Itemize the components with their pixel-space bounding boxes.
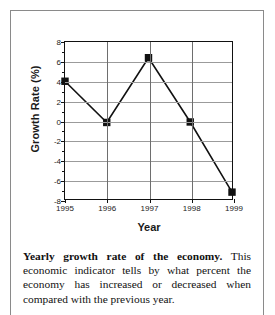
y-gridline: [65, 161, 232, 162]
y-tick-mark: [61, 122, 65, 123]
x-axis-title: Year: [64, 221, 234, 233]
y-tick-label: 2: [57, 97, 61, 106]
x-tick-label: 1997: [141, 204, 159, 213]
y-tick-label: -2: [54, 137, 61, 146]
y-tick-label: 4: [57, 77, 61, 86]
x-tick-label: 1996: [98, 204, 116, 213]
y-tick-label: -4: [54, 157, 61, 166]
y-minor-tick-mark: [62, 171, 65, 172]
y-gridline: [65, 102, 232, 103]
x-tick-mark: [234, 199, 235, 203]
y-minor-tick-mark: [62, 151, 65, 152]
growth-rate-chart: Growth Rate (%) 86420-2-4-6-819951996199…: [11, 11, 265, 239]
y-tick-mark: [61, 181, 65, 182]
y-gridline: [65, 141, 232, 142]
x-gridline: [150, 42, 151, 199]
x-tick-label: 1995: [56, 204, 74, 213]
y-tick-mark: [61, 141, 65, 142]
x-tick-mark: [192, 199, 193, 203]
y-tick-mark: [61, 82, 65, 83]
y-tick-mark: [61, 161, 65, 162]
data-line: [65, 58, 232, 192]
x-gridline: [192, 42, 193, 199]
y-tick-label: 0: [57, 117, 61, 126]
y-minor-tick-mark: [62, 72, 65, 73]
data-point-marker: [228, 188, 235, 195]
y-tick-label: -6: [54, 177, 61, 186]
y-minor-tick-mark: [62, 52, 65, 53]
plot-area: 86420-2-4-6-819951996199719981999: [64, 41, 233, 200]
x-tick-label: 1998: [183, 204, 201, 213]
caption-lead: Yearly growth rate of the economy.: [23, 250, 222, 262]
x-gridline: [107, 42, 108, 199]
y-tick-mark: [61, 102, 65, 103]
x-tick-mark: [107, 199, 108, 203]
x-tick-mark: [65, 199, 66, 203]
x-tick-label: 1999: [225, 204, 243, 213]
figure-caption: Yearly growth rate of the economy. This …: [23, 249, 251, 306]
y-gridline: [65, 62, 232, 63]
y-tick-label: 8: [57, 38, 61, 47]
y-gridline: [65, 82, 232, 83]
y-tick-mark: [61, 42, 65, 43]
y-tick-label: 6: [57, 57, 61, 66]
y-gridline: [65, 181, 232, 182]
y-tick-mark: [61, 62, 65, 63]
x-tick-mark: [150, 199, 151, 203]
y-gridline: [65, 122, 232, 123]
y-minor-tick-mark: [62, 191, 65, 192]
figure-frame: Growth Rate (%) 86420-2-4-6-819951996199…: [10, 10, 264, 315]
y-minor-tick-mark: [62, 92, 65, 93]
data-point-marker: [145, 54, 152, 61]
y-axis-title: Growth Rate (%): [29, 49, 41, 169]
series-line: [65, 42, 232, 199]
y-minor-tick-mark: [62, 131, 65, 132]
y-minor-tick-mark: [62, 112, 65, 113]
